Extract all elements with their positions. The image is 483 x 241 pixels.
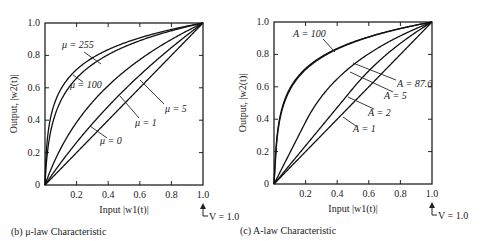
x-tick-label: 0.2: [70, 189, 83, 200]
y-tick-label: 0.8: [28, 49, 41, 60]
y-tick-label: 0.6: [28, 82, 41, 93]
x-tick-label: 1.0: [197, 189, 210, 200]
figure-caption: (c) A-law Characteristic: [240, 225, 337, 237]
x-tick-label: 0.8: [394, 188, 407, 199]
y-axis-label: Output, |w2(t)|: [237, 74, 249, 132]
y-axis-label: Output, |w2(t)|: [8, 75, 20, 133]
x-tick-label: 0.8: [165, 189, 178, 200]
series-label: μ = 255: [61, 39, 94, 50]
y-tick-label: 1.0: [257, 16, 270, 27]
x-tick-label: 0.4: [331, 188, 344, 199]
series-label: A = 5: [383, 90, 407, 101]
y-tick-label: 0.2: [257, 146, 270, 157]
y-tick-label: 0: [264, 178, 269, 189]
series-label: A = 2: [367, 107, 391, 118]
x-tick-label: 0.4: [102, 189, 115, 200]
y-tick-label: 0.6: [257, 81, 270, 92]
x-tick-label: 0.2: [299, 188, 312, 199]
companding-figure: 0.20.40.60.81.000.20.40.60.81.0Input |w1…: [0, 0, 483, 241]
series-label: μ = 0: [99, 135, 122, 146]
y-tick-label: 0.2: [28, 147, 41, 158]
y-tick-label: 0.4: [257, 113, 270, 124]
y-tick-label: 1.0: [28, 17, 41, 28]
v-annotation: V = 1.0: [209, 211, 239, 222]
x-tick-label: 1.0: [426, 188, 439, 199]
y-tick-label: 0.4: [28, 114, 41, 125]
series-curve: [274, 22, 432, 184]
x-tick-label: 0.6: [134, 189, 147, 200]
series-label: μ = 1: [134, 117, 157, 128]
y-tick-label: 0: [35, 179, 40, 190]
v-annotation: V = 1.0: [438, 210, 468, 221]
figure-caption: (b) μ-law Characteristic: [11, 226, 107, 238]
series-label: A = 100: [292, 28, 326, 39]
series-label: A = 87.6: [396, 78, 432, 89]
x-axis-label: Input |w1(t)|: [328, 203, 377, 215]
x-tick-label: 0.6: [363, 188, 376, 199]
series-label: μ = 5: [164, 103, 187, 114]
series-label: μ = 100: [69, 79, 102, 90]
series-label: A = 1: [352, 123, 376, 134]
y-tick-label: 0.8: [257, 48, 270, 59]
x-axis-label: Input |w1(t)|: [99, 204, 148, 216]
